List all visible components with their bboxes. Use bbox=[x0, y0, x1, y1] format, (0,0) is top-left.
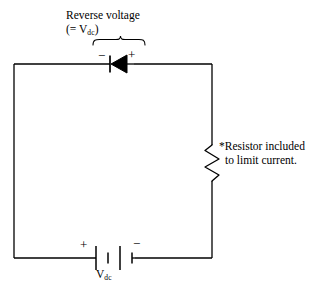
reverse-voltage-line2-suffix: ) bbox=[95, 23, 99, 35]
brace-reverse-voltage bbox=[93, 36, 145, 45]
reverse-voltage-line2-prefix: (= V bbox=[66, 23, 87, 35]
resistor-note: *Resistor included to limit current. bbox=[219, 139, 305, 168]
diode-anode-triangle bbox=[111, 55, 127, 73]
diode-minus-sign: − bbox=[98, 49, 105, 62]
reverse-voltage-line2-subscript: dc bbox=[87, 27, 94, 36]
source-label: Vdc bbox=[96, 268, 112, 282]
resistor-symbol bbox=[205, 145, 219, 181]
resistor-note-line2: to limit current. bbox=[219, 153, 305, 167]
reverse-voltage-caption: Reverse voltage (= Vdc) bbox=[66, 9, 140, 37]
circuit-diagram: Reverse voltage (= Vdc) − + *Resistor in… bbox=[0, 0, 316, 300]
source-label-subscript: dc bbox=[104, 273, 111, 282]
diode-plus-sign: + bbox=[128, 48, 135, 61]
battery-symbol bbox=[96, 246, 135, 270]
resistor-note-line1: *Resistor included bbox=[219, 140, 305, 152]
battery-plus-sign: + bbox=[80, 238, 87, 251]
reverse-voltage-line1: Reverse voltage bbox=[66, 9, 140, 21]
reverse-voltage-line2: (= Vdc) bbox=[66, 23, 140, 37]
battery-minus-sign: − bbox=[133, 237, 140, 250]
